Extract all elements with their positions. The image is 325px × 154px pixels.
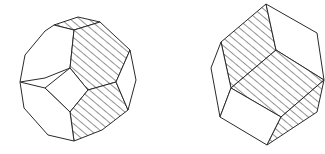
truncated-octahedron-figure (20, 17, 136, 141)
diagram-canvas (0, 0, 325, 154)
rhombic-dodecahedron-figure (211, 4, 324, 145)
polyhedra-svg (0, 0, 325, 154)
